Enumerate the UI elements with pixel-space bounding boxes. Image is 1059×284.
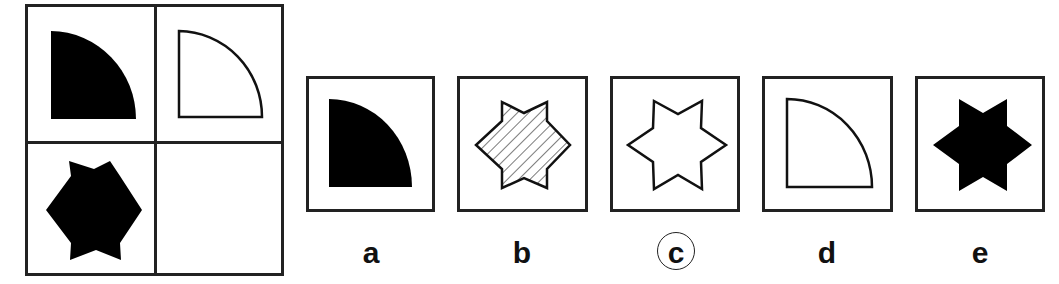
solid-quarter-circle-icon <box>28 7 154 141</box>
hatched-star-icon <box>460 79 585 209</box>
option-c[interactable] <box>610 76 740 212</box>
option-d[interactable] <box>762 76 893 212</box>
option-e[interactable] <box>915 76 1045 212</box>
outline-quarter-circle-icon <box>157 7 281 141</box>
matrix-cell-bottom-right-empty[interactable] <box>157 144 281 273</box>
solid-star-icon <box>28 144 154 273</box>
option-e-label[interactable]: e <box>950 238 1010 268</box>
solid-star-icon <box>918 79 1042 209</box>
matrix-cell-top-left <box>28 7 154 141</box>
option-b-label[interactable]: b <box>492 238 552 268</box>
option-a[interactable] <box>306 76 435 212</box>
option-c-label[interactable]: c <box>646 238 706 268</box>
option-b[interactable] <box>457 76 588 212</box>
outline-star-icon <box>613 79 737 209</box>
solid-quarter-circle-icon <box>309 79 432 209</box>
option-a-label[interactable]: a <box>341 238 401 268</box>
puzzle-matrix <box>25 4 284 276</box>
option-d-label[interactable]: d <box>797 238 857 268</box>
matrix-cell-bottom-left <box>28 144 154 273</box>
matrix-cell-top-right <box>157 7 281 141</box>
outline-quarter-circle-icon <box>765 79 890 209</box>
